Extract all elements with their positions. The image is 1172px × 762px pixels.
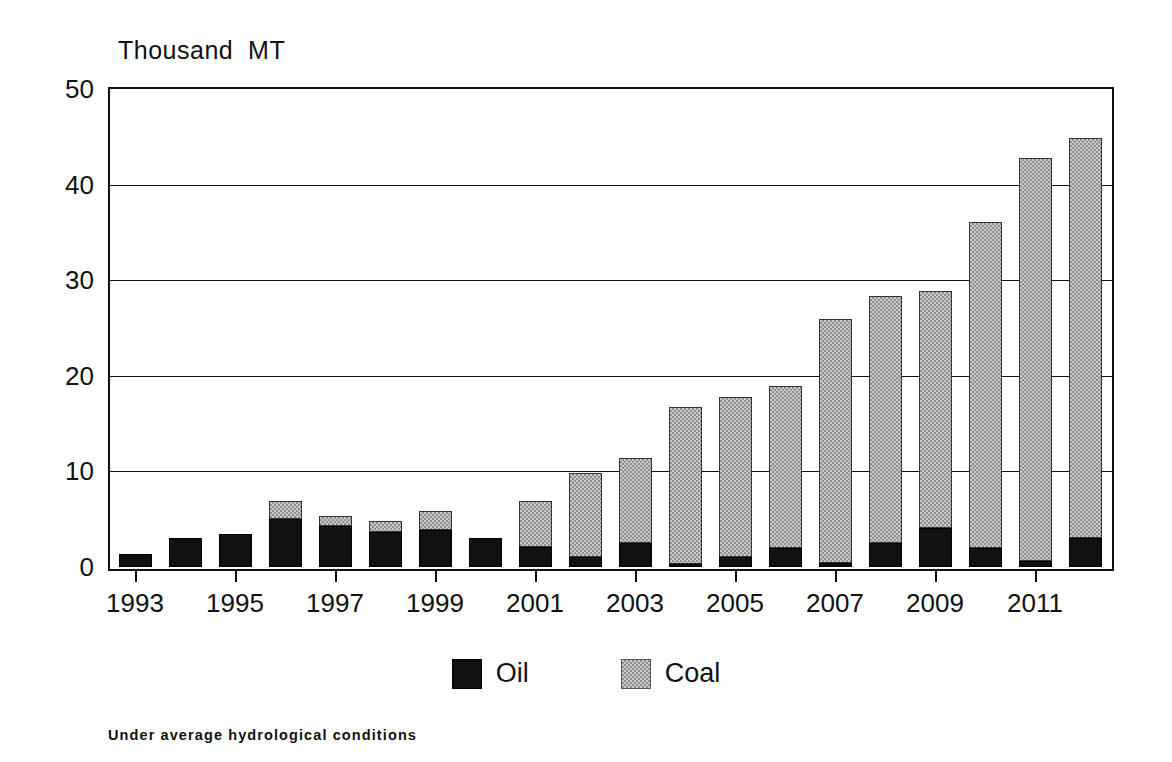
x-axis-tick-label: 2005 — [680, 588, 790, 619]
bar-segment-coal[interactable] — [1019, 158, 1052, 561]
bar-segment-coal[interactable] — [719, 397, 752, 558]
bar-slot — [260, 89, 310, 567]
x-axis-tick — [335, 569, 337, 582]
bar-segment-coal[interactable] — [319, 516, 352, 526]
y-axis-tick-label: 0 — [14, 552, 94, 583]
bar-stack[interactable] — [719, 397, 752, 567]
bar-segment-oil[interactable] — [719, 557, 752, 567]
bar-stack[interactable] — [669, 407, 702, 567]
x-axis-tick-labels: 1993199519971999200120032005200720092011 — [110, 588, 1110, 624]
bar-slot — [110, 89, 160, 567]
bar-segment-oil[interactable] — [269, 519, 302, 567]
bar-stack[interactable] — [319, 516, 352, 567]
bar-stack[interactable] — [519, 501, 552, 567]
legend-swatch-coal-icon — [621, 659, 651, 689]
bar-segment-coal[interactable] — [1069, 138, 1102, 539]
y-axis-tick-label: 10 — [14, 456, 94, 487]
bar-segment-oil[interactable] — [319, 526, 352, 567]
x-axis-tick-label: 1995 — [180, 588, 290, 619]
bar-slot — [810, 89, 860, 567]
bar-segment-coal[interactable] — [619, 458, 652, 543]
bar-stack[interactable] — [919, 291, 952, 567]
x-axis-tick — [135, 569, 137, 582]
bar-stack[interactable] — [419, 511, 452, 567]
legend-item-oil[interactable]: Oil — [452, 658, 529, 689]
y-axis-tick-label: 20 — [14, 360, 94, 391]
bar-segment-coal[interactable] — [769, 386, 802, 548]
bar-slot — [610, 89, 660, 567]
bar-segment-oil[interactable] — [769, 548, 802, 567]
y-axis-tick-labels: 01020304050 — [8, 87, 94, 567]
bar-segment-coal[interactable] — [669, 407, 702, 564]
bar-segment-oil[interactable] — [1019, 561, 1052, 567]
bar-stack[interactable] — [269, 501, 302, 567]
y-axis-unit-title: Thousand MT — [118, 36, 285, 65]
bar-segment-oil[interactable] — [169, 538, 202, 567]
bar-stack[interactable] — [169, 538, 202, 567]
chart-figure: Thousand MT 01020304050 1993199519971999… — [0, 0, 1172, 762]
legend-label: Oil — [496, 658, 529, 689]
bar-segment-oil[interactable] — [519, 547, 552, 567]
bar-segment-coal[interactable] — [419, 511, 452, 530]
bar-stack[interactable] — [969, 222, 1002, 567]
bar-stack[interactable] — [619, 458, 652, 567]
bar-segment-oil[interactable] — [1069, 538, 1102, 567]
bar-stack[interactable] — [219, 534, 252, 567]
x-axis-tick — [935, 569, 937, 582]
bar-slot — [660, 89, 710, 567]
bar-stack[interactable] — [769, 386, 802, 567]
x-axis-tick-label: 2003 — [580, 588, 690, 619]
x-axis-tick-label: 2011 — [980, 588, 1090, 619]
bar-segment-coal[interactable] — [369, 521, 402, 532]
bar-segment-oil[interactable] — [869, 543, 902, 567]
bar-stack[interactable] — [869, 296, 902, 567]
x-axis-tick-label: 1993 — [80, 588, 190, 619]
bar-stack[interactable] — [569, 473, 602, 567]
bar-slot — [210, 89, 260, 567]
bar-segment-coal[interactable] — [569, 473, 602, 557]
bar-stack[interactable] — [369, 521, 402, 567]
bar-segment-oil[interactable] — [219, 534, 252, 567]
bar-segment-oil[interactable] — [819, 563, 852, 567]
bar-stack[interactable] — [1069, 138, 1102, 567]
bar-segment-coal[interactable] — [919, 291, 952, 528]
bar-segment-coal[interactable] — [269, 501, 302, 519]
bar-segment-oil[interactable] — [469, 538, 502, 567]
x-axis-tick — [535, 569, 537, 582]
bar-slot — [460, 89, 510, 567]
bar-series-container — [110, 89, 1110, 567]
bar-segment-coal[interactable] — [869, 296, 902, 543]
bar-stack[interactable] — [1019, 158, 1052, 567]
bar-stack[interactable] — [469, 538, 502, 567]
x-axis-tick — [435, 569, 437, 582]
bar-segment-oil[interactable] — [919, 528, 952, 567]
bar-segment-oil[interactable] — [419, 530, 452, 567]
bar-segment-coal[interactable] — [969, 222, 1002, 548]
bar-slot — [360, 89, 410, 567]
x-axis-tick-label: 1999 — [380, 588, 490, 619]
bar-stack[interactable] — [119, 554, 152, 567]
bar-segment-oil[interactable] — [669, 564, 702, 567]
x-axis-tick-label: 1997 — [280, 588, 390, 619]
bar-slot — [560, 89, 610, 567]
bar-slot — [710, 89, 760, 567]
bar-segment-oil[interactable] — [119, 554, 152, 567]
x-axis-tick — [835, 569, 837, 582]
bar-stack[interactable] — [819, 319, 852, 567]
bar-slot — [510, 89, 560, 567]
bar-segment-coal[interactable] — [819, 319, 852, 563]
bar-segment-oil[interactable] — [569, 557, 602, 567]
bar-slot — [410, 89, 460, 567]
y-axis-tick-label: 50 — [14, 74, 94, 105]
bar-segment-coal[interactable] — [519, 501, 552, 547]
bar-slot — [910, 89, 960, 567]
x-axis-tick-label: 2007 — [780, 588, 890, 619]
bar-slot — [960, 89, 1010, 567]
legend-item-coal[interactable]: Coal — [621, 658, 721, 689]
bar-segment-oil[interactable] — [619, 543, 652, 567]
bar-slot — [160, 89, 210, 567]
bar-segment-oil[interactable] — [369, 532, 402, 567]
bar-slot — [1010, 89, 1060, 567]
bar-segment-oil[interactable] — [969, 548, 1002, 567]
bar-slot — [310, 89, 360, 567]
